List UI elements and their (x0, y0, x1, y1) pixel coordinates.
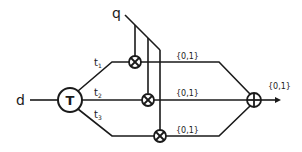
branch-label-t3: t3 (94, 109, 102, 121)
output-label-3: {0,1} (176, 126, 199, 135)
output-label-1: {0,1} (176, 52, 199, 61)
input-label: d (16, 92, 25, 108)
sum-output-label: {0,1} (268, 82, 291, 91)
multiplier-1-icon (129, 56, 141, 68)
multiplier-3-icon (154, 130, 166, 142)
control-label: q (112, 5, 121, 21)
multiplier-2-icon (142, 94, 154, 106)
branch-t3-line (78, 109, 154, 136)
arrow-icon (275, 97, 281, 103)
branch-label-t2: t2 (94, 87, 102, 99)
branch-t1-line (78, 62, 129, 91)
sum-node-icon (247, 93, 261, 107)
t-node-label: T (66, 93, 75, 108)
branch-label-t1: t1 (94, 57, 102, 69)
diagram-canvas: T d q t1 t2 t3 {0,1} {0,1} {0,1} {0,1} (0, 0, 302, 152)
q-diagonal-line (125, 15, 160, 50)
output-label-2: {0,1} (176, 89, 199, 98)
